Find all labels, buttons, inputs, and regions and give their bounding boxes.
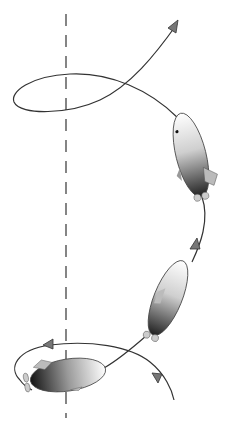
- airship-top: [162, 108, 222, 205]
- arrowhead-icon: [190, 238, 200, 249]
- arrowhead-icon: [43, 339, 53, 349]
- connecting-path-top-middle: [192, 197, 205, 262]
- connecting-path-middle-bottom: [104, 336, 146, 368]
- upper-loop-path: [13, 24, 178, 118]
- diagram-svg: [0, 0, 227, 432]
- airship-bottom: [21, 350, 108, 398]
- propeller-icon: [23, 373, 29, 383]
- airship-middle: [138, 256, 196, 346]
- propeller-icon: [24, 383, 30, 393]
- airship-trajectory-diagram: [0, 0, 227, 432]
- arrowhead-icon: [168, 20, 178, 33]
- arrowhead-icon: [152, 373, 162, 383]
